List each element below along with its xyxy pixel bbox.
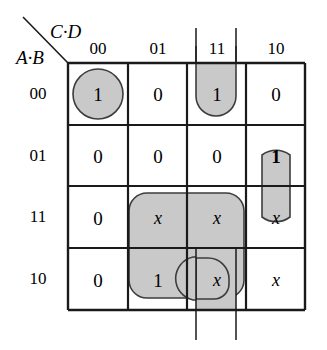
cell-r11-c11: x xyxy=(187,209,247,227)
column-axis-label: C·D xyxy=(50,22,81,41)
column-header-0: 00 xyxy=(68,40,128,57)
cell-r10-c00: 0 xyxy=(68,271,128,290)
cell-r00-c10: 0 xyxy=(246,85,306,104)
karnaugh-map-figure: C·D A·B 00 01 11 10 00 01 11 10 1 0 1 0 … xyxy=(0,0,327,350)
row-header-1: 01 xyxy=(8,147,68,164)
cell-r10-c01: 1 xyxy=(128,271,188,290)
row-header-0: 00 xyxy=(8,85,68,102)
cell-r00-c00: 1 xyxy=(68,85,128,104)
column-header-1: 01 xyxy=(128,40,188,57)
column-header-2: 11 xyxy=(187,40,247,57)
cell-r10-c10: x xyxy=(246,271,306,289)
cell-r00-c11: 1 xyxy=(187,85,247,104)
column-header-3: 10 xyxy=(246,40,306,57)
cell-r11-c00: 0 xyxy=(68,209,128,228)
row-header-2: 11 xyxy=(8,208,68,225)
cell-r01-c01: 0 xyxy=(128,147,188,166)
cell-r11-c01: x xyxy=(128,209,188,227)
cell-r01-c11: 0 xyxy=(187,147,247,166)
cell-r11-c10: x xyxy=(246,209,306,227)
cell-r10-c11: x xyxy=(187,271,247,289)
row-axis-label: A·B xyxy=(16,48,44,67)
cell-r00-c01: 0 xyxy=(128,85,188,104)
cell-r01-c00: 0 xyxy=(68,147,128,166)
row-header-3: 10 xyxy=(8,270,68,287)
group-shading-layer xyxy=(73,40,290,310)
cell-r01-c10: 1 xyxy=(246,147,306,166)
